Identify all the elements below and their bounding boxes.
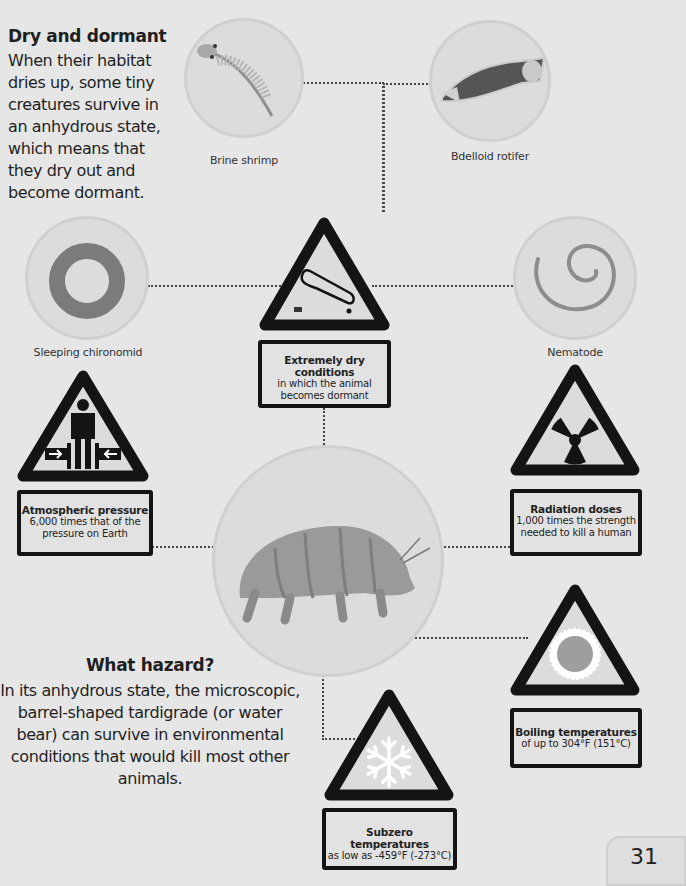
creature-nematode (513, 216, 637, 340)
connector-dry-tardigrade (323, 408, 325, 448)
pressure-sign-icon (15, 370, 152, 486)
label-brine-shrimp: Brine shrimp (184, 154, 304, 167)
brine-shrimp-icon (187, 21, 301, 135)
pressure-label: Atmospheric pressure 6,000 times that of… (17, 490, 153, 556)
chironomid-icon (28, 219, 146, 337)
hazard-paragraph: In its anhydrous state, the microscopic,… (0, 680, 300, 790)
creature-brine-shrimp (184, 18, 304, 138)
connector-radiation (444, 546, 510, 548)
creature-chironomid (25, 216, 149, 340)
dry-sign (258, 215, 391, 335)
intro-paragraph: When their habitat dries up, some tiny c… (8, 50, 168, 204)
label-nematode: Nematode (513, 346, 637, 359)
nematode-icon (516, 219, 634, 337)
page-number: 31 (630, 844, 658, 869)
creature-tardigrade (212, 445, 444, 677)
connector-nematode (372, 285, 517, 287)
radiation-sign (508, 362, 642, 480)
cold-label: Subzero temperatures as low as -459°F (-… (322, 808, 457, 870)
intro-heading: Dry and dormant (8, 26, 166, 46)
dry-organism-sign-icon (258, 215, 391, 335)
tardigrade-icon (215, 448, 441, 674)
pressure-sign (15, 370, 152, 486)
connector-rotifer (383, 83, 431, 212)
radiation-label: Radiation doses 1,000 times the strength… (510, 489, 642, 556)
label-chironomid: Sleeping chironomid (8, 346, 168, 359)
rotifer-icon (432, 23, 548, 139)
heat-sign-icon (508, 582, 642, 700)
heat-label: Boiling temperatures of up to 304°F (151… (510, 708, 642, 768)
radiation-sign-icon (508, 362, 642, 480)
label-rotifer: Bdelloid rotifer (429, 150, 551, 163)
hazard-heading: What hazard? (0, 655, 300, 675)
snowflake-sign-icon (322, 685, 457, 805)
connector-pressure (152, 546, 222, 548)
connector-shrimp (300, 82, 384, 212)
cold-sign (322, 685, 457, 805)
dry-conditions-label: Extremely dry conditions in which the an… (258, 340, 391, 408)
heat-sign (508, 582, 642, 700)
creature-rotifer (429, 20, 551, 142)
